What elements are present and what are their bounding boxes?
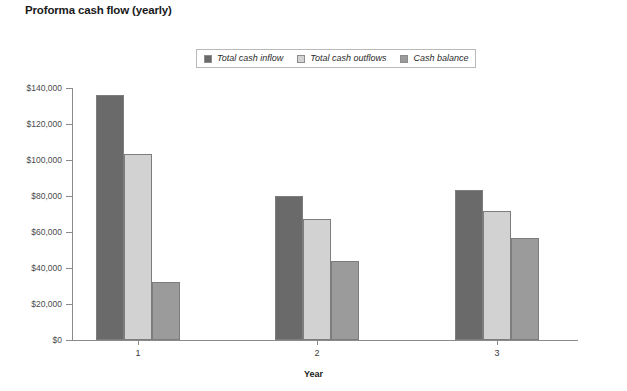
bar (331, 261, 359, 340)
bar (96, 95, 124, 340)
x-axis-tick (138, 341, 139, 345)
legend-label: Total cash inflow (217, 54, 283, 63)
legend-swatch-icon (204, 55, 212, 63)
y-axis-tick-label: $20,000 (0, 299, 62, 309)
y-axis-tick-label: $140,000 (0, 83, 62, 93)
bar (152, 282, 180, 341)
chart-container: Proforma cash flow (yearly) Total cash i… (0, 0, 627, 391)
y-axis-tick (66, 340, 72, 341)
legend-entry: Total cash inflow (204, 54, 283, 63)
x-axis-tick-label: 1 (118, 348, 158, 358)
y-axis-tick-label: $0 (0, 335, 62, 345)
legend-entry: Total cash outflows (297, 54, 386, 63)
x-axis-tick-label: 3 (477, 348, 517, 358)
chart-legend: Total cash inflowTotal cash outflowsCash… (196, 49, 476, 68)
chart-title: Proforma cash flow (yearly) (25, 4, 172, 16)
bar (303, 219, 331, 341)
legend-entry: Cash balance (400, 54, 468, 63)
y-axis-tick-label: $60,000 (0, 227, 62, 237)
bar (455, 190, 483, 340)
x-axis-tick (497, 341, 498, 345)
y-axis-tick-label: $120,000 (0, 119, 62, 129)
x-axis-tick (317, 341, 318, 345)
bar (275, 196, 303, 340)
legend-label: Cash balance (413, 54, 468, 63)
bar (483, 211, 511, 340)
y-axis-tick-label: $100,000 (0, 155, 62, 165)
y-axis-tick (66, 232, 72, 233)
bar (124, 154, 152, 340)
x-axis-tick-label: 2 (297, 348, 337, 358)
y-axis-tick-label: $40,000 (0, 263, 62, 273)
y-axis-tick (66, 268, 72, 269)
y-axis-tick (66, 196, 72, 197)
legend-swatch-icon (297, 55, 305, 63)
y-axis-tick (66, 124, 72, 125)
y-axis-tick (66, 160, 72, 161)
y-axis-tick (66, 88, 72, 89)
bar (511, 238, 539, 340)
y-axis-tick-label: $80,000 (0, 191, 62, 201)
legend-label: Total cash outflows (310, 54, 386, 63)
y-axis-tick (66, 304, 72, 305)
x-axis-title: Year (0, 369, 627, 379)
legend-swatch-icon (400, 55, 408, 63)
